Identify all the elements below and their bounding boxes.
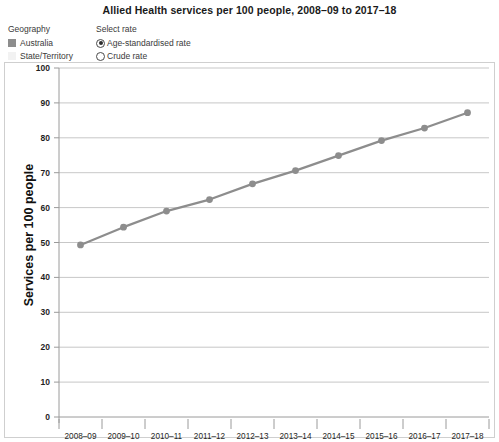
legend-swatch-icon: [8, 52, 16, 60]
y-tick-label: 60: [41, 203, 51, 213]
radio-option-label: Age-standardised rate: [107, 38, 191, 49]
y-tick-label: 10: [41, 377, 51, 387]
data-point[interactable]: 2009–10: 54.4: [120, 224, 127, 231]
legend-item-label: Australia: [20, 38, 53, 49]
x-tick-label: 2016–17: [409, 432, 441, 441]
radio-button-icon[interactable]: [96, 52, 105, 61]
line-chart-svg: 01020304050607080901002008–092009–102010…: [0, 62, 499, 442]
legend-item-australia[interactable]: Australia: [8, 37, 73, 49]
x-tick-label: 2017–18: [452, 432, 484, 441]
legend-swatch-icon: [8, 39, 16, 47]
radio-option-crude[interactable]: Crude rate: [96, 50, 191, 62]
data-point[interactable]: 2017–18: 87.2: [464, 109, 471, 116]
y-tick-label: 0: [45, 412, 50, 422]
select-rate-group: Select rate Age-standardised rate Crude …: [96, 24, 191, 63]
y-tick-label: 20: [41, 342, 51, 352]
y-tick-label: 30: [41, 307, 51, 317]
data-point[interactable]: 2008–09: 49.3: [77, 242, 84, 249]
data-point[interactable]: 2011–12: 62.3: [206, 196, 213, 203]
select-rate-label: Select rate: [96, 24, 191, 35]
x-tick-label: 2008–09: [65, 432, 97, 441]
y-tick-label: 50: [41, 238, 51, 248]
controls-bar: Geography Australia State/Territory Sele…: [0, 0, 499, 62]
data-point[interactable]: 2010–11: 59: [163, 208, 170, 215]
radio-option-label: Crude rate: [107, 51, 147, 62]
y-tick-label: 40: [41, 272, 51, 282]
legend-item-state-territory[interactable]: State/Territory: [8, 50, 73, 62]
data-point[interactable]: 2014–15: 74.9: [335, 152, 342, 159]
geography-legend-group: Geography Australia State/Territory: [8, 24, 73, 63]
y-tick-label: 100: [36, 63, 50, 73]
y-tick-label: 80: [41, 133, 51, 143]
chart-plot-area: Services per 100 people 0102030405060708…: [0, 62, 499, 442]
radio-button-icon[interactable]: [96, 39, 105, 48]
x-tick-label: 2014–15: [323, 432, 355, 441]
data-point[interactable]: 2012–13: 66.8: [249, 180, 256, 187]
chart-page: Allied Health services per 100 people, 2…: [0, 0, 499, 442]
x-tick-label: 2011–12: [194, 432, 226, 441]
data-point[interactable]: 2015–16: 79.2: [378, 137, 385, 144]
radio-option-age-standardised[interactable]: Age-standardised rate: [96, 37, 191, 49]
x-tick-label: 2010–11: [151, 432, 183, 441]
y-tick-label: 70: [41, 168, 51, 178]
x-tick-label: 2012–13: [237, 432, 269, 441]
data-point[interactable]: 2016–17: 82.8: [421, 125, 428, 132]
series-line-australia: [81, 113, 468, 245]
geography-group-label: Geography: [8, 24, 73, 35]
x-tick-label: 2009–10: [108, 432, 140, 441]
y-tick-label: 90: [41, 98, 51, 108]
data-point[interactable]: 2013–14: 70.6: [292, 167, 299, 174]
legend-item-label: State/Territory: [20, 51, 73, 62]
x-tick-label: 2013–14: [280, 432, 312, 441]
x-tick-label: 2015–16: [366, 432, 398, 441]
